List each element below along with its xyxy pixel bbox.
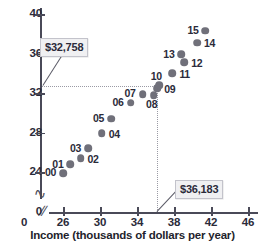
data-point-label: 02 (88, 153, 99, 165)
data-point-label: 07 (125, 87, 136, 99)
data-point-label: 08 (146, 98, 157, 110)
callout-median: $32,758 (40, 38, 88, 57)
data-point (127, 99, 135, 107)
data-point (139, 90, 147, 98)
plot-area: 00010203040506070809101112131415 (0, 0, 265, 246)
data-point-label: 09 (164, 83, 175, 95)
data-point-label: 11 (179, 68, 190, 80)
data-point (107, 115, 115, 123)
data-point-label: 05 (93, 112, 104, 124)
data-point-label: 03 (70, 142, 81, 154)
data-point-label: 12 (191, 57, 202, 69)
callout-mean: $36,183 (175, 180, 223, 199)
data-point (98, 130, 106, 138)
data-point-label: 04 (109, 128, 120, 140)
data-point-label: 01 (52, 158, 63, 170)
data-point (155, 81, 163, 89)
x-axis-title: Income (thousands of dollars per year) (0, 229, 265, 241)
data-point (77, 154, 85, 162)
data-point-label: 06 (112, 96, 123, 108)
data-point-label: 14 (204, 37, 215, 49)
scatter-chart: ∿ ∕∕ 02428323640 0263034384246 000102030… (0, 0, 265, 246)
data-point (178, 51, 186, 59)
data-point (180, 59, 188, 67)
data-point (168, 69, 176, 77)
data-point (202, 27, 210, 35)
data-point-label: 10 (151, 70, 162, 82)
data-point-label: 13 (163, 48, 174, 60)
data-point (84, 145, 92, 153)
data-point (193, 39, 201, 47)
data-point-label: 15 (187, 24, 198, 36)
data-point (67, 160, 75, 168)
data-point (59, 169, 67, 177)
